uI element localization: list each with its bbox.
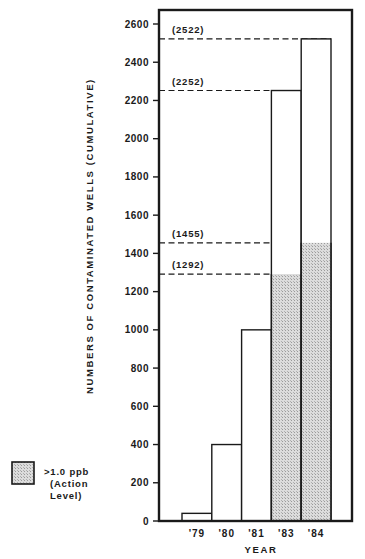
legend-label: Level) <box>50 490 82 501</box>
bar-81 <box>242 330 272 521</box>
x-tick-label: '83 <box>278 528 295 539</box>
x-tick-label: '80 <box>218 528 235 539</box>
y-tick-label: 2400 <box>125 57 149 68</box>
bar-action-level <box>302 243 330 521</box>
legend: >1.0 ppb(ActionLevel) <box>12 462 89 501</box>
bar-total <box>212 445 242 521</box>
y-tick-label: 0 <box>143 516 149 527</box>
bars <box>182 39 331 521</box>
legend-label: (Action <box>50 478 88 489</box>
y-axis: 0200400600800100012001400160018002000220… <box>125 19 159 527</box>
legend-swatch-shaded <box>12 462 34 484</box>
y-tick-label: 1600 <box>125 210 149 221</box>
y-tick-label: 2600 <box>125 19 149 30</box>
y-tick-label: 2200 <box>125 95 149 106</box>
bar-action-level <box>272 274 300 521</box>
y-tick-label: 1000 <box>125 324 149 335</box>
y-tick-label: 1800 <box>125 171 149 182</box>
legend-label: >1.0 ppb <box>44 466 89 477</box>
x-tick-label: '84 <box>308 528 325 539</box>
y-tick-label: 600 <box>131 401 149 412</box>
y-tick-label: 400 <box>131 439 149 450</box>
y-tick-label: 2000 <box>125 133 149 144</box>
reference-label: (2522) <box>172 24 204 35</box>
x-tick-label: '79 <box>189 528 206 539</box>
bar-84 <box>301 39 331 521</box>
y-tick-label: 200 <box>131 477 149 488</box>
bar-total <box>242 330 272 521</box>
y-tick-label: 1200 <box>125 286 149 297</box>
bar-83 <box>271 91 301 521</box>
x-axis-title: YEAR <box>245 544 278 555</box>
y-tick-label: 800 <box>131 363 149 374</box>
reference-label: (1455) <box>172 228 204 239</box>
y-axis-title: NUMBERS OF CONTAMINATED WELLS (CUMULATIV… <box>84 78 95 394</box>
x-tick-label: '81 <box>248 528 265 539</box>
reference-label: (1292) <box>172 259 204 270</box>
reference-label: (2252) <box>172 76 204 87</box>
bar-80 <box>212 445 242 521</box>
contaminated-wells-chart: (2522)(2252)(1455)(1292) 020040060080010… <box>0 0 365 559</box>
x-axis: '79'80'81'83'84 <box>189 528 325 539</box>
y-tick-label: 1400 <box>125 248 149 259</box>
